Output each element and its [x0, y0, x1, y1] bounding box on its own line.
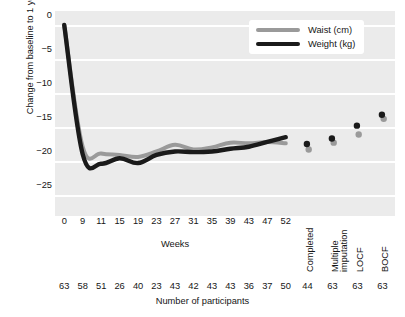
legend-label-weight: Weight (kg)	[308, 39, 355, 49]
participants-cell-8: 43	[207, 281, 217, 291]
x-rot-label-locf: LOCF	[355, 247, 365, 272]
x-tick-52: 52	[281, 216, 291, 226]
endpoint-dot-weight-0	[304, 141, 310, 147]
participants-cell-13: 44	[302, 281, 312, 291]
participants-cell-11: 37	[262, 281, 272, 291]
legend-label-waist: Waist (cm)	[308, 25, 352, 35]
participants-cell-9: 43	[225, 281, 235, 291]
x-rot-label-completed: Completed	[305, 228, 315, 272]
x-rot-label-multiple: Multiple	[330, 240, 340, 272]
participants-cell-1: 58	[78, 281, 88, 291]
y-tick-m25: −25	[24, 180, 52, 190]
y-tick-m15: −15	[24, 112, 52, 122]
chart-figure: Change from baseline to 1 year 0 −5 −10 …	[0, 0, 405, 317]
x-tick-9: 9	[80, 216, 85, 226]
participants-cell-4: 40	[133, 281, 143, 291]
participants-cell-10: 36	[244, 281, 254, 291]
participants-cell-14: 63	[327, 281, 337, 291]
x-tick-23: 23	[151, 216, 161, 226]
x-tick-39: 39	[225, 216, 235, 226]
endpoint-dot-weight-2	[354, 122, 360, 128]
x-rot-label-imputation: imputation	[339, 230, 349, 272]
x-tick-47: 47	[262, 216, 272, 226]
y-tick-m10: −10	[24, 78, 52, 88]
participants-cell-12: 50	[281, 281, 291, 291]
legend-item-waist: Waist (cm)	[256, 25, 355, 35]
x-axis-title: Weeks	[55, 239, 295, 249]
x-axis-ticks: 091115192327313539434752	[0, 216, 405, 230]
x-tick-31: 31	[188, 216, 198, 226]
participants-row-title: Number of participants	[0, 296, 405, 306]
y-tick-0: 0	[24, 10, 52, 20]
endpoint-dot-weight-1	[329, 135, 335, 141]
endpoint-dot-waist-0	[306, 146, 312, 152]
legend-swatch-waist	[256, 28, 300, 33]
endpoint-dot-waist-2	[356, 131, 362, 137]
x-tick-15: 15	[114, 216, 124, 226]
participants-cell-2: 51	[96, 281, 106, 291]
x-tick-19: 19	[133, 216, 143, 226]
participants-cell-16: 63	[377, 281, 387, 291]
x-rot-label-bocf: BOCF	[380, 246, 390, 272]
legend-swatch-weight	[256, 42, 300, 47]
participants-cell-5: 23	[151, 281, 161, 291]
participants-cell-6: 43	[170, 281, 180, 291]
x-tick-35: 35	[207, 216, 217, 226]
x-tick-43: 43	[244, 216, 254, 226]
y-tick-m5: −5	[24, 44, 52, 54]
participants-cell-3: 26	[114, 281, 124, 291]
participants-cell-15: 63	[352, 281, 362, 291]
y-axis-ticks: 0 −5 −10 −15 −20 −25	[18, 0, 52, 210]
participants-cell-0: 63	[59, 281, 69, 291]
x-tick-27: 27	[170, 216, 180, 226]
y-tick-m20: −20	[24, 146, 52, 156]
legend: Waist (cm) Weight (kg)	[249, 20, 364, 54]
participants-row: 6358512640234342434336375044636363	[0, 281, 405, 295]
legend-item-weight: Weight (kg)	[256, 39, 355, 49]
x-tick-0: 0	[62, 216, 67, 226]
participants-cell-7: 42	[188, 281, 198, 291]
endpoint-dot-weight-3	[379, 112, 385, 118]
x-tick-11: 11	[96, 216, 106, 226]
